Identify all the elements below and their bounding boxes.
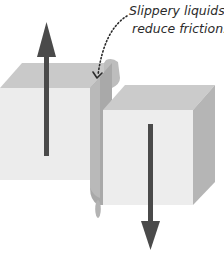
liquid-strip-shade: [90, 77, 100, 198]
droplet: [95, 200, 101, 218]
right-block: [103, 85, 215, 205]
annotation-line-1: Slippery liquids: [129, 3, 224, 19]
diagram-canvas: [0, 0, 224, 255]
friction-diagram: Slippery liquids reduce friction.: [0, 0, 224, 255]
annotation-line-2: reduce friction.: [132, 21, 224, 37]
